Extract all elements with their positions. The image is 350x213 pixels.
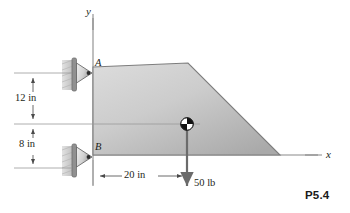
support-b-wall-pad <box>62 146 73 176</box>
support-b <box>62 144 92 177</box>
point-label-a: A <box>95 58 101 69</box>
support-a <box>62 58 92 91</box>
support-a-wall-pad <box>62 60 73 90</box>
support-b-pin <box>87 155 91 159</box>
dimension-label-8in: 8 in <box>19 139 35 150</box>
point-label-b: B <box>95 142 101 153</box>
force-label-50lb: 50 lb <box>194 178 215 189</box>
dimension-label-20in: 20 in <box>124 170 145 181</box>
x-axis-label: x <box>326 149 331 160</box>
figure-number: P5.4 <box>305 190 329 202</box>
support-b-backplate <box>72 144 77 177</box>
statics-diagram <box>0 0 350 213</box>
support-a-backplate <box>72 58 77 91</box>
dimension-label-12in: 12 in <box>15 93 36 104</box>
y-axis-label: y <box>86 6 91 17</box>
center-of-gravity-icon <box>181 118 193 130</box>
figure-container: y x A B 12 in 8 in 20 in 50 lb P5.4 <box>0 0 350 213</box>
support-a-pin <box>87 71 91 75</box>
